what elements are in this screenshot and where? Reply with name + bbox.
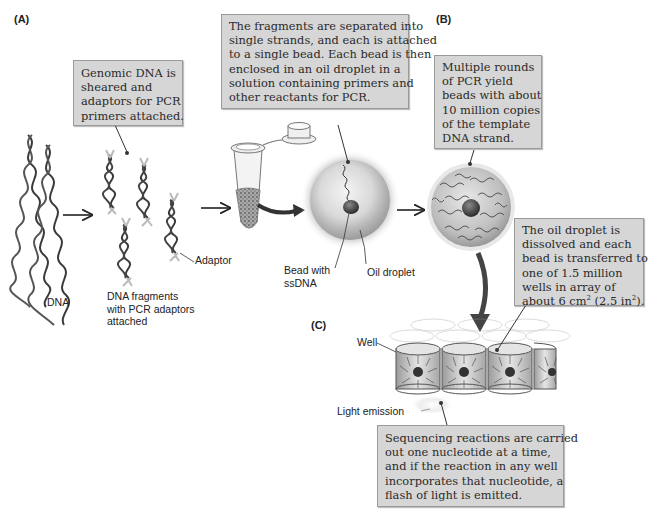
callout-pointer — [115, 125, 127, 152]
callout-fragments: The fragments are separated into single … — [221, 14, 409, 109]
well-array-icon — [390, 319, 570, 415]
label-dna-fragments: DNA fragments with PCR adaptors attached — [107, 290, 195, 328]
callout-pcr: Multiple rounds of PCR yield beads with … — [434, 55, 542, 149]
callout-genomic-dna: Genomic DNA is sheared and adaptors for … — [73, 60, 183, 126]
label-bead-with-ssdna: Bead with ssDNA — [284, 264, 330, 289]
callout-pointer — [470, 150, 474, 163]
dna-fragments-icon — [103, 150, 179, 286]
panel-label-a: (A) — [14, 13, 29, 25]
transfer-arrow-icon — [258, 205, 296, 213]
label-light-emission: Light emission — [337, 405, 404, 418]
well-leader-line — [377, 343, 396, 352]
callout-sequencing: Sequencing reactions are carried out one… — [377, 425, 564, 507]
pointer-dot — [125, 151, 129, 155]
callout-wells: The oil droplet is dissolved and each be… — [514, 218, 644, 306]
panel-label-b: (B) — [436, 13, 451, 25]
callout-pointer — [498, 305, 526, 349]
label-well: Well — [357, 336, 377, 349]
oil-droplet-icon — [300, 150, 400, 250]
adaptor-leader-line — [180, 253, 194, 262]
label-dna: DNA — [47, 296, 69, 309]
transfer-arrow-icon — [478, 253, 486, 318]
area-line: about 6 cm2 (2.5 in2). — [522, 294, 636, 308]
label-adaptor: Adaptor — [195, 254, 232, 267]
light-flash-icon — [410, 395, 454, 415]
amplified-bead-icon — [427, 163, 515, 251]
panel-label-c: (C) — [311, 319, 326, 331]
label-oil-droplet: Oil droplet — [367, 266, 415, 279]
